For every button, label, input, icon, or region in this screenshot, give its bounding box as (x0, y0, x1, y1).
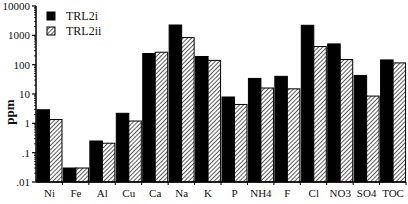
bar-trl2ii-f (287, 89, 300, 182)
y-tick-label: 1 (25, 117, 31, 129)
legend-label-trl2ii: TRL2ii (66, 24, 102, 38)
bar-trl2ii-ca (155, 52, 168, 182)
bar-trl2ii-nh4 (261, 88, 274, 182)
legend: TRL2iTRL2ii (47, 9, 102, 38)
bar-trl2ii-k (208, 60, 221, 182)
y-tick-label: 10000 (3, 0, 31, 12)
bar-trl2i-na (169, 25, 182, 182)
bar-trl2i-ni (37, 110, 50, 182)
x-axis (36, 182, 406, 185)
y-tick-label: 10 (19, 88, 31, 100)
y-tick-label: 1000 (8, 29, 31, 41)
y-tick-label: .01 (16, 176, 30, 188)
bar-trl2ii-fe (76, 168, 89, 182)
bar-trl2ii-al (102, 143, 115, 182)
x-tick-label: Ca (149, 187, 161, 199)
x-tick-label: Ni (44, 187, 55, 199)
bar-trl2i-k (196, 56, 209, 182)
legend-swatch-trl2ii (47, 27, 55, 35)
x-tick-label: SO4 (357, 187, 377, 199)
bar-trl2ii-ni (50, 120, 63, 182)
bar-chart: 100001000100101.1.01 ppm NiFeAlCuCaNaKPN… (0, 0, 408, 204)
bar-trl2ii-no3 (340, 60, 353, 182)
x-tick-label: NH4 (250, 187, 272, 199)
bar-trl2ii-na (182, 38, 195, 182)
bar-trl2i-ca (143, 54, 156, 182)
x-tick-label: Cl (309, 187, 319, 199)
bar-trl2i-cu (116, 113, 128, 182)
legend-swatch-trl2i (47, 12, 55, 20)
x-tick-label: Na (175, 187, 188, 199)
y-axis (32, 6, 36, 182)
x-tick-label: TOC (382, 187, 404, 199)
bar-trl2ii-cu (129, 121, 142, 182)
x-tick-label: NO3 (330, 187, 352, 199)
x-tick-label: Fe (70, 187, 81, 199)
y-tick-labels: 100001000100101.1.01 (3, 0, 31, 188)
x-tick-label: Cu (122, 187, 135, 199)
bar-trl2i-cl (301, 25, 314, 182)
bar-trl2i-no3 (328, 44, 341, 182)
x-tick-label: P (231, 187, 237, 199)
bars (37, 25, 406, 182)
x-tick-label: K (204, 187, 212, 199)
bar-trl2ii-so4 (367, 96, 380, 182)
x-tick-label: F (284, 187, 290, 199)
bar-trl2i-toc (381, 60, 394, 182)
bar-trl2i-so4 (354, 75, 367, 182)
bar-trl2ii-cl (314, 47, 327, 182)
x-tick-label: Al (97, 187, 108, 199)
bar-trl2ii-p (235, 104, 248, 182)
y-tick-label: 100 (14, 59, 31, 71)
bar-trl2ii-toc (393, 63, 406, 182)
bar-trl2i-p (222, 97, 235, 182)
bar-trl2i-nh4 (248, 78, 261, 182)
legend-label-trl2i: TRL2i (66, 9, 99, 23)
bar-trl2i-al (90, 141, 103, 182)
bar-trl2i-fe (63, 168, 76, 182)
bar-trl2i-f (275, 76, 288, 182)
y-tick-label: .1 (22, 147, 30, 159)
x-tick-labels: NiFeAlCuCaNaKPNH4FClNO3SO4TOC (44, 187, 404, 199)
y-axis-label: ppm (2, 99, 17, 124)
